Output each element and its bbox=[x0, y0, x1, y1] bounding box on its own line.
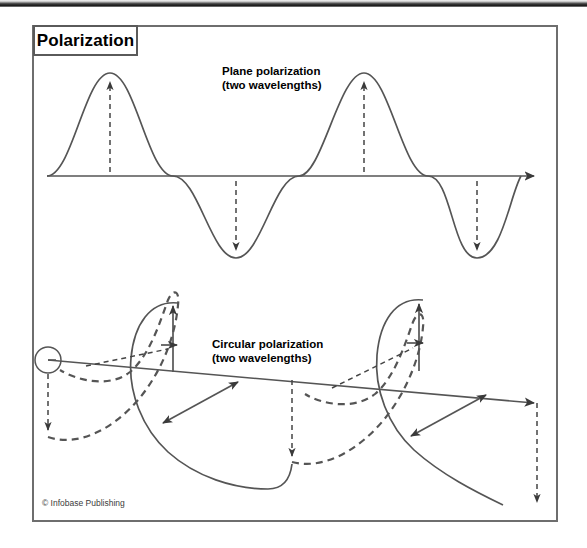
circular-helix-solid-2 bbox=[377, 300, 503, 505]
circular-radius-vector-1 bbox=[163, 382, 238, 423]
figure-page: Polarization Plane polarization (two wav… bbox=[0, 0, 587, 548]
page-title: Polarization bbox=[37, 31, 135, 51]
plane-polarization-panel bbox=[47, 73, 534, 258]
circular-radius-vector-2 bbox=[411, 395, 486, 436]
copyright-credit: © Infobase Publishing bbox=[42, 498, 125, 508]
figure-title-box: Polarization bbox=[33, 25, 138, 56]
circular-connector-2 bbox=[332, 348, 413, 388]
circular-polarization-label: Circular polarization (two wavelengths) bbox=[212, 337, 323, 365]
plane-polarization-label: Plane polarization (two wavelengths) bbox=[222, 64, 322, 92]
circular-polarization-panel bbox=[35, 292, 537, 505]
plane-sine-wave bbox=[47, 73, 521, 258]
circular-axis-line bbox=[48, 360, 534, 403]
circular-connector-1 bbox=[86, 349, 168, 366]
